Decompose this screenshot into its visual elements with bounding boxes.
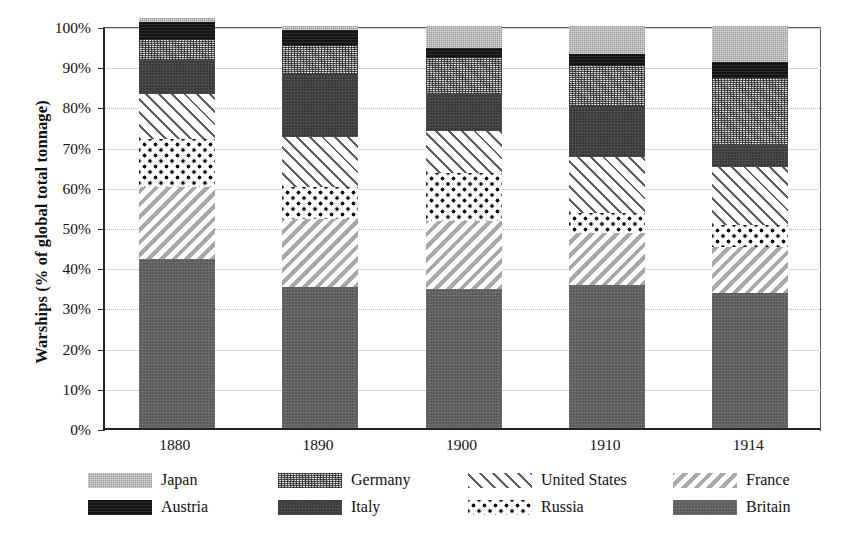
y-axis-tick	[98, 189, 105, 190]
bar-segment-1890-italy[interactable]	[282, 74, 358, 136]
bar-segment-1910-russia[interactable]	[569, 213, 645, 233]
bar-segment-1910-japan[interactable]	[569, 26, 645, 54]
bar-segment-1900-russia[interactable]	[426, 173, 502, 221]
bar-segment-1914-united-states[interactable]	[712, 167, 788, 225]
legend-item-united-states[interactable]: United States	[468, 470, 627, 490]
bar-segment-1900-britain[interactable]	[426, 289, 502, 428]
bar-segment-1880-united-states[interactable]	[139, 94, 215, 138]
legend-label: Britain	[746, 498, 790, 516]
y-axis-tick-label: 90%	[29, 60, 91, 76]
legend-label: Austria	[161, 498, 208, 516]
bar-segment-1890-united-states[interactable]	[282, 137, 358, 187]
legend-item-austria[interactable]: Austria	[88, 497, 208, 517]
y-axis-tick-label: 0%	[29, 422, 91, 438]
plot-area	[103, 28, 820, 430]
legend-label: Russia	[541, 498, 584, 516]
bar-segment-1900-germany[interactable]	[426, 58, 502, 94]
legend-label: France	[746, 471, 790, 489]
bar-segment-1900-japan[interactable]	[426, 26, 502, 48]
bar-1880[interactable]	[139, 26, 215, 428]
legend-item-japan[interactable]: Japan	[88, 470, 197, 490]
bar-segment-1890-russia[interactable]	[282, 187, 358, 219]
bar-segment-1910-austria[interactable]	[569, 54, 645, 66]
legend-swatch-germany	[278, 473, 342, 488]
bar-segment-1890-france[interactable]	[282, 219, 358, 287]
legend-swatch-united-states	[468, 473, 532, 488]
bar-segment-1900-france[interactable]	[426, 221, 502, 289]
y-axis-tick	[98, 269, 105, 270]
y-axis-tick-label: 40%	[29, 261, 91, 277]
legend-swatch-russia	[468, 500, 532, 515]
legend-label: Japan	[161, 471, 197, 489]
y-axis-tick	[98, 430, 105, 431]
bar-segment-1890-japan[interactable]	[282, 26, 358, 30]
legend-label: United States	[541, 471, 627, 489]
legend-item-france[interactable]: France	[673, 470, 790, 490]
y-axis-tick-label: 30%	[29, 301, 91, 317]
y-axis-tick-label: 50%	[29, 221, 91, 237]
y-axis-tick	[98, 229, 105, 230]
bar-segment-1910-italy[interactable]	[569, 106, 645, 156]
x-axis-label-1900: 1900	[402, 436, 522, 454]
legend-label: Germany	[351, 471, 411, 489]
bar-segment-1910-united-states[interactable]	[569, 157, 645, 213]
bar-segment-1890-austria[interactable]	[282, 30, 358, 46]
bar-segment-1900-united-states[interactable]	[426, 131, 502, 173]
bar-segment-1890-germany[interactable]	[282, 46, 358, 74]
x-axis-label-1880: 1880	[115, 436, 235, 454]
bar-segment-1880-germany[interactable]	[139, 40, 215, 60]
bar-segment-1914-france[interactable]	[712, 247, 788, 293]
legend-label: Italy	[351, 498, 380, 516]
y-axis-tick	[98, 28, 105, 29]
bar-segment-1914-britain[interactable]	[712, 293, 788, 428]
bar-1910[interactable]	[569, 26, 645, 428]
y-axis-tick	[98, 390, 105, 391]
x-axis-label-1910: 1910	[545, 436, 665, 454]
bar-segment-1880-italy[interactable]	[139, 60, 215, 94]
legend-item-italy[interactable]: Italy	[278, 497, 380, 517]
bar-segment-1900-austria[interactable]	[426, 48, 502, 58]
y-axis-tick	[98, 350, 105, 351]
y-axis-tick	[98, 149, 105, 150]
legend-swatch-austria	[88, 500, 152, 515]
y-axis-tick-label: 70%	[29, 141, 91, 157]
bar-segment-1880-france[interactable]	[139, 187, 215, 259]
x-axis-label-1914: 1914	[688, 436, 808, 454]
legend-swatch-japan	[88, 473, 152, 488]
legend-swatch-britain	[673, 500, 737, 515]
bar-segment-1880-britain[interactable]	[139, 259, 215, 428]
bar-segment-1880-japan[interactable]	[139, 18, 215, 22]
x-axis-label-1890: 1890	[258, 436, 378, 454]
y-axis-tick-label: 80%	[29, 100, 91, 116]
bar-segment-1914-italy[interactable]	[712, 145, 788, 167]
bar-segment-1914-japan[interactable]	[712, 26, 788, 62]
bar-1890[interactable]	[282, 26, 358, 428]
bar-segment-1880-russia[interactable]	[139, 139, 215, 187]
y-axis-tick-label: 10%	[29, 382, 91, 398]
bar-segment-1890-britain[interactable]	[282, 287, 358, 428]
warships-stacked-bar-chart: Warships (% of global total tonnage) 0%1…	[0, 0, 861, 541]
bar-segment-1914-austria[interactable]	[712, 62, 788, 78]
chart-legend: JapanGermanyUnited StatesFranceAustriaIt…	[88, 470, 848, 530]
legend-swatch-france	[673, 473, 737, 488]
y-axis-tick	[98, 108, 105, 109]
bar-segment-1910-britain[interactable]	[569, 285, 645, 428]
y-axis-tick-label: 100%	[29, 20, 91, 36]
bar-1914[interactable]	[712, 26, 788, 428]
y-axis-tick-label: 20%	[29, 342, 91, 358]
y-axis-tick-label: 60%	[29, 181, 91, 197]
legend-swatch-italy	[278, 500, 342, 515]
bar-segment-1914-germany[interactable]	[712, 78, 788, 144]
legend-item-russia[interactable]: Russia	[468, 497, 584, 517]
bar-segment-1910-france[interactable]	[569, 233, 645, 285]
bar-1900[interactable]	[426, 26, 502, 428]
bar-segment-1880-austria[interactable]	[139, 22, 215, 40]
bar-segment-1914-russia[interactable]	[712, 225, 788, 247]
bar-segment-1910-germany[interactable]	[569, 66, 645, 106]
y-axis-tick	[98, 309, 105, 310]
legend-item-germany[interactable]: Germany	[278, 470, 411, 490]
y-axis-tick	[98, 68, 105, 69]
bar-segment-1900-italy[interactable]	[426, 94, 502, 130]
legend-item-britain[interactable]: Britain	[673, 497, 790, 517]
